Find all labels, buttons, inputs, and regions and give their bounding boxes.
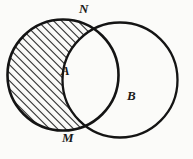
circle-a-label: A	[61, 64, 70, 77]
circle-b-label: B	[127, 89, 136, 102]
intersection-point-label-n: N	[79, 2, 88, 15]
intersection-point-label-m: M	[62, 131, 74, 144]
venn-diagram-canvas	[0, 0, 193, 159]
venn-diagram-figure: N A B M	[0, 0, 193, 159]
hatched-region-a-minus-b	[0, 0, 193, 159]
